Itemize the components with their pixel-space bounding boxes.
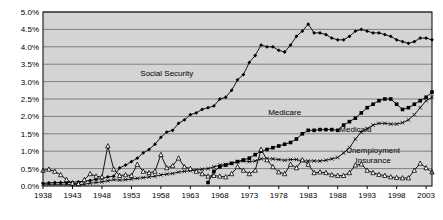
data-point-marker (318, 128, 322, 132)
data-point-marker (424, 95, 428, 99)
y-tick-label: 1.5% (21, 130, 39, 139)
chart-container: 0.0%0.5%1.0%1.5%2.0%2.5%3.0%3.5%4.0%4.5%… (0, 0, 443, 220)
x-tick-label: 1983 (299, 191, 317, 200)
x-tick-label: 1978 (270, 191, 288, 200)
series-label-medicaid: Medicaid (339, 125, 371, 134)
x-tick-label: 1958 (152, 191, 170, 200)
data-point-marker (365, 106, 369, 110)
data-point-marker (206, 181, 210, 185)
data-point-marker (371, 102, 375, 106)
data-point-marker (265, 148, 269, 152)
y-tick-label: 4.5% (21, 25, 39, 34)
data-point-marker (407, 106, 411, 110)
data-point-marker (289, 141, 293, 145)
data-point-marker (359, 111, 363, 115)
data-point-marker (295, 137, 299, 141)
data-point-marker (330, 128, 334, 132)
x-tick-label: 1948 (93, 191, 111, 200)
x-tick-label: 1973 (240, 191, 258, 200)
data-point-marker (247, 156, 251, 160)
data-point-marker (383, 97, 387, 101)
y-tick-label: 2.0% (21, 112, 39, 121)
data-point-marker (418, 99, 422, 103)
x-tick-label: 1993 (358, 191, 376, 200)
y-tick-label: 4.0% (21, 43, 39, 52)
x-tick-label: 1943 (64, 191, 82, 200)
y-tick-label: 0.5% (21, 165, 39, 174)
data-point-marker (401, 108, 405, 112)
x-axis-tick-labels: 1938194319481953195819631968197319781983… (34, 186, 435, 200)
x-tick-label: 2003 (417, 191, 435, 200)
data-point-marker (395, 102, 399, 106)
data-point-marker (301, 132, 305, 136)
series-label-medicare: Medicare (268, 108, 301, 117)
y-tick-label: 5.0% (21, 8, 39, 17)
series-label-social-security: Social Security (140, 69, 193, 78)
data-point-marker (354, 116, 358, 120)
y-tick-label: 1.0% (21, 147, 39, 156)
data-point-marker (277, 144, 281, 148)
x-tick-label: 1968 (211, 191, 229, 200)
y-tick-label: 3.5% (21, 60, 39, 69)
chart-svg: 0.0%0.5%1.0%1.5%2.0%2.5%3.0%3.5%4.0%4.5%… (0, 0, 443, 220)
data-point-marker (389, 97, 393, 101)
data-point-marker (312, 129, 316, 133)
data-point-marker (283, 142, 287, 146)
data-point-marker (324, 128, 328, 132)
data-point-marker (413, 102, 417, 106)
data-point-marker (348, 120, 352, 124)
series-label-unemployment-insurance-line2: Insurance (355, 156, 391, 165)
series-label-unemployment-insurance: Unemployment (346, 146, 401, 155)
y-tick-label: 0.0% (21, 182, 39, 191)
data-point-marker (253, 153, 257, 157)
x-tick-label: 1953 (123, 191, 141, 200)
y-tick-label: 3.0% (21, 78, 39, 87)
x-tick-label: 1938 (34, 191, 52, 200)
x-tick-label: 1963 (181, 191, 199, 200)
data-point-marker (377, 99, 381, 103)
x-tick-label: 1998 (388, 191, 406, 200)
y-tick-label: 2.5% (21, 95, 39, 104)
x-tick-label: 1988 (329, 191, 347, 200)
data-point-marker (306, 129, 310, 133)
y-axis-tick-labels: 0.0%0.5%1.0%1.5%2.0%2.5%3.0%3.5%4.0%4.5%… (21, 8, 39, 191)
data-point-marker (271, 146, 275, 150)
